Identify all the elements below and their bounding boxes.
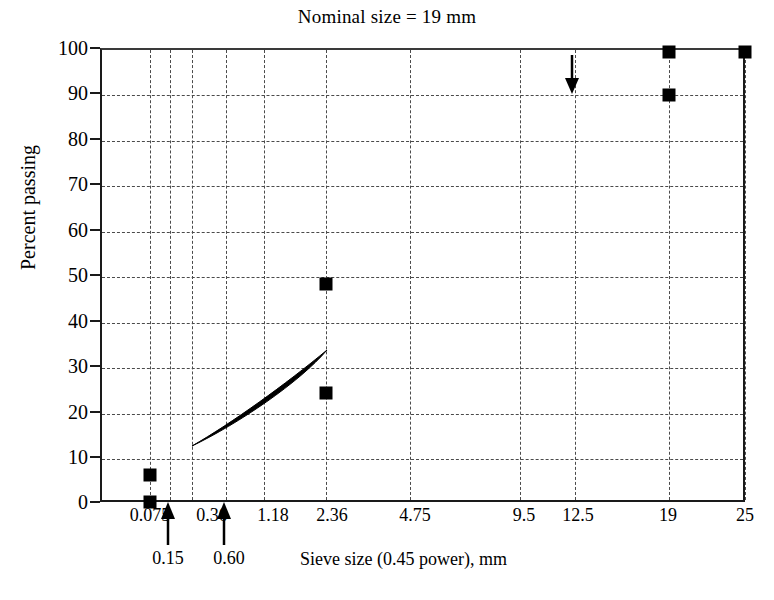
- gridline-x-1.18: [264, 50, 265, 500]
- y-tick-label-50: 50: [28, 265, 88, 285]
- gridline-x-0.30: [192, 50, 193, 500]
- x-tick-label-0075: 0.075: [130, 506, 171, 524]
- x-tick-label-95: 9.5: [513, 506, 536, 524]
- chart-title: Nominal size = 19 mm: [0, 6, 774, 28]
- gridline-x-19: [669, 50, 670, 500]
- data-marker-0075-75[interactable]: [144, 469, 157, 482]
- y-tick-label-100: 100: [28, 38, 88, 58]
- gridline-x-12.5: [575, 50, 576, 500]
- gridline-y-20: [102, 414, 743, 415]
- gradation-chart-figure: Nominal size = 19 mm Percent passing 100…: [0, 0, 774, 600]
- gridline-x-0.075: [150, 50, 151, 500]
- gridline-x-0.15: [170, 50, 171, 500]
- plot-area: [100, 48, 745, 502]
- x-subtick-label-060: 0.60: [213, 549, 245, 567]
- y-tick-mark-20: [90, 411, 100, 413]
- gridline-x-2.36: [326, 50, 327, 500]
- data-marker-236-25[interactable]: [320, 387, 333, 400]
- gridline-y-70: [102, 186, 743, 187]
- x-tick-label-125: 12.5: [562, 506, 594, 524]
- data-marker-25-100[interactable]: [739, 46, 752, 59]
- y-tick-mark-90: [90, 92, 100, 94]
- gridline-y-50: [102, 277, 743, 278]
- x-tick-label-030: 0.30: [196, 506, 228, 524]
- gridline-y-40: [102, 323, 743, 324]
- y-tick-label-90: 90: [28, 83, 88, 103]
- y-tick-label-0: 0: [28, 492, 88, 512]
- gridline-y-30: [102, 368, 743, 369]
- y-tick-label-30: 30: [28, 356, 88, 376]
- y-tick-mark-60: [90, 229, 100, 231]
- y-tick-mark-30: [90, 365, 100, 367]
- y-tick-label-20: 20: [28, 402, 88, 422]
- gridline-y-90: [102, 95, 743, 96]
- y-tick-label-10: 10: [28, 447, 88, 467]
- x-subtick-label-015: 0.15: [152, 549, 184, 567]
- y-tick-mark-0: [90, 501, 100, 503]
- x-tick-label-25: 25: [736, 506, 754, 524]
- data-marker-19-90[interactable]: [663, 89, 676, 102]
- y-tick-mark-70: [90, 183, 100, 185]
- data-marker-236-49[interactable]: [320, 278, 333, 291]
- gridline-y-10: [102, 459, 743, 460]
- y-tick-label-70: 70: [28, 174, 88, 194]
- y-tick-label-60: 60: [28, 220, 88, 240]
- x-tick-label-19: 19: [659, 506, 677, 524]
- x-tick-label-118: 1.18: [257, 506, 289, 524]
- y-tick-mark-50: [90, 274, 100, 276]
- gridline-x-25: [745, 50, 746, 500]
- x-tick-label-236: 2.36: [316, 506, 348, 524]
- gridline-x-4.75: [410, 50, 411, 500]
- gridline-y-80: [102, 141, 743, 142]
- x-axis-label: Sieve size (0.45 power), mm: [300, 549, 700, 570]
- gridline-y-60: [102, 232, 743, 233]
- data-marker-19-100[interactable]: [663, 46, 676, 59]
- gridline-x-9.5: [520, 50, 521, 500]
- gridline-x-0.60: [226, 50, 227, 500]
- y-tick-mark-40: [90, 320, 100, 322]
- x-tick-label-475: 4.75: [399, 506, 431, 524]
- y-tick-label-40: 40: [28, 311, 88, 331]
- y-tick-mark-10: [90, 456, 100, 458]
- y-tick-mark-80: [90, 138, 100, 140]
- y-tick-mark-100: [90, 47, 100, 49]
- y-tick-label-80: 80: [28, 129, 88, 149]
